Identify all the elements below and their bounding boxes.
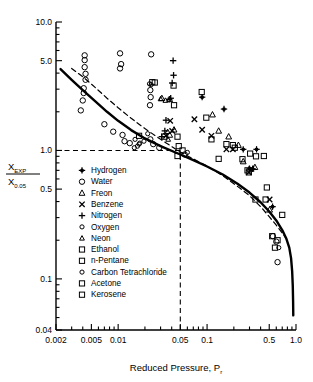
x-axis-title-subscript: r — [220, 369, 222, 375]
legend-label: Hydrogen — [91, 166, 127, 175]
x-tick-label: 0.002 — [45, 335, 67, 345]
legend-label: Nitrogen — [91, 211, 122, 220]
x-axis-title-text: Reduced Pressure, P — [130, 362, 220, 373]
legend-label: Acetone — [91, 279, 121, 288]
y-tick-label: 10.0 — [35, 17, 52, 27]
figure-container: 0.0020.0050.010.050.10.51.0 0.040.10.51.… — [0, 0, 313, 382]
x-tick-label: 0.005 — [81, 335, 103, 345]
legend-label: Benzene — [91, 200, 124, 209]
x-ticklabel-group: 0.0020.0050.010.050.10.51.0 — [45, 335, 302, 345]
x-tick-label: 0.05 — [172, 335, 189, 345]
y-tick-label: 0.1 — [40, 274, 52, 284]
y-num-sub: EXP — [14, 168, 26, 174]
legend-label: Neon — [91, 234, 111, 243]
legend-label: Oxygen — [91, 223, 120, 232]
legend-label: n-Pentane — [91, 256, 129, 265]
x-tick-label: 0.01 — [110, 335, 127, 345]
y-tick-label: 1.0 — [40, 145, 52, 155]
y-tick-label: 0.5 — [40, 184, 52, 194]
legend-label: Carbon Tetrachloride — [91, 268, 167, 277]
y-den-sub: 0.05 — [14, 183, 26, 189]
x-tick-label: 1.0 — [290, 335, 302, 345]
x-tick-label: 0.5 — [263, 335, 275, 345]
legend-item-carbon-tetrachloride[interactable]: Carbon Tetrachloride — [80, 268, 167, 277]
x-tick-label: 0.1 — [201, 335, 213, 345]
legend-label: Kerosene — [91, 290, 126, 299]
legend-label: Ethanol — [91, 245, 119, 254]
legend-label: Freon — [91, 189, 113, 198]
chart-svg: 0.0020.0050.010.050.10.51.0 0.040.10.51.… — [0, 0, 313, 382]
legend-label: Water — [91, 177, 113, 186]
y-tick-label: 5.0 — [40, 56, 52, 66]
y-tick-label: 0.04 — [35, 325, 52, 335]
x-axis-title: Reduced Pressure, Pr — [130, 362, 222, 375]
